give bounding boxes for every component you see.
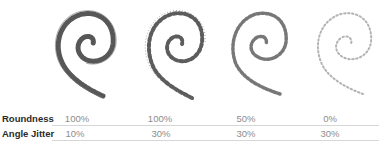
row-divider: [52, 125, 379, 126]
angle-jitter-value-4: 30%: [310, 127, 350, 141]
spiral-sample-1: [45, 2, 120, 102]
spiral-sample-2: [132, 2, 207, 102]
brush-spiral-illustration: [0, 0, 387, 108]
angle-jitter-label: Angle Jitter: [2, 127, 54, 141]
row-divider: [52, 140, 379, 141]
spiral-sample-3: [218, 2, 293, 102]
roundness-value-2: 100%: [140, 112, 180, 126]
roundness-value-4: 0%: [310, 112, 350, 126]
angle-jitter-row: Angle Jitter 10% 30% 30% 30%: [0, 127, 387, 141]
roundness-label: Roundness: [2, 112, 54, 126]
angle-jitter-value-1: 10%: [55, 127, 95, 141]
spiral-sample-4: [303, 2, 378, 102]
roundness-value-3: 50%: [226, 112, 266, 126]
roundness-row: Roundness 100% 100% 50% 0%: [0, 112, 387, 126]
roundness-value-1: 100%: [57, 112, 97, 126]
angle-jitter-value-3: 30%: [226, 127, 266, 141]
angle-jitter-value-2: 30%: [141, 127, 181, 141]
